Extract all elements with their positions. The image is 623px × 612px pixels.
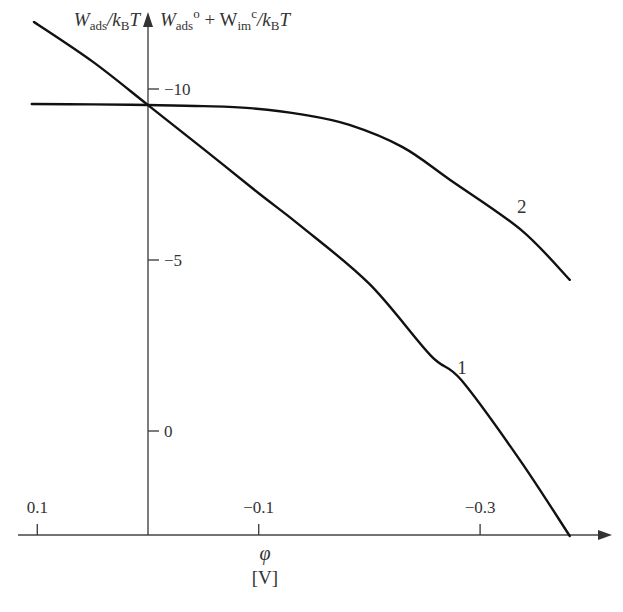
y-tick-label: −10 — [164, 80, 191, 99]
series-2-line — [32, 104, 570, 280]
y-axis-label-right: Wadso + Wimc/kBT — [160, 6, 291, 33]
y-axis-arrow-icon — [143, 12, 153, 27]
series-1-line — [34, 22, 570, 536]
x-axis-label: φ — [259, 542, 270, 565]
x-tick-label: −0.3 — [465, 498, 496, 517]
y-tick-label: 0 — [164, 422, 173, 441]
x-tick-label: 0.1 — [27, 498, 48, 517]
y-axis-label-left: Wads/kBT — [74, 9, 142, 33]
series-2-label: 2 — [517, 196, 527, 217]
x-tick-label: −0.1 — [243, 498, 274, 517]
y-tick-label: −5 — [164, 251, 182, 270]
x-axis-unit: [V] — [252, 567, 278, 588]
chart: 0.1−0.1−0.3 −10−50 Wads/kBT Wadso + Wimc… — [0, 0, 623, 612]
series-1-label: 1 — [457, 357, 467, 378]
x-axis-arrow-icon — [598, 530, 612, 540]
